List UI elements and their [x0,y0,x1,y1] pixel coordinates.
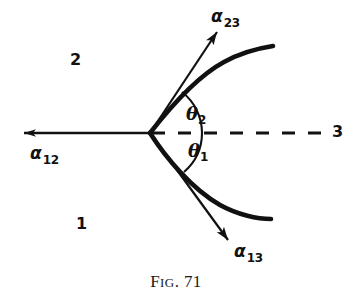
alpha-12-subscript: 12 [43,153,59,167]
theta-2-label: θ2 [186,105,206,123]
theta-2-subscript: 2 [198,113,206,127]
lower-interface-curve [150,133,271,219]
figure-caption: FIG. 71 [0,272,352,292]
region-label-3: 3 [332,124,343,140]
caption-fig-ig: IG [160,275,175,290]
alpha-12-symbol: α [30,143,42,163]
caption-number: . 71 [175,272,202,291]
alpha-23-label: α23 [211,8,239,25]
theta-1-symbol: θ [188,140,200,161]
region-label-2: 2 [70,52,81,68]
upper-interface-curve [150,46,273,133]
theta-1-subscript: 1 [200,150,208,164]
alpha-23-subscript: 23 [224,16,240,30]
caption-fig-f: F [150,272,160,291]
alpha-13-subscript: 13 [247,251,263,265]
alpha-13-label: α13 [234,243,262,260]
region-label-1: 1 [76,216,87,232]
figure-71: α23 α12 α13 θ2 θ1 2 1 3 FIG. 71 [0,0,352,306]
alpha-23-symbol: α [211,6,223,26]
theta-2-symbol: θ [186,103,198,124]
alpha-13-symbol: α [234,241,246,261]
alpha-12-label: α12 [30,145,58,162]
theta-1-label: θ1 [188,142,208,160]
